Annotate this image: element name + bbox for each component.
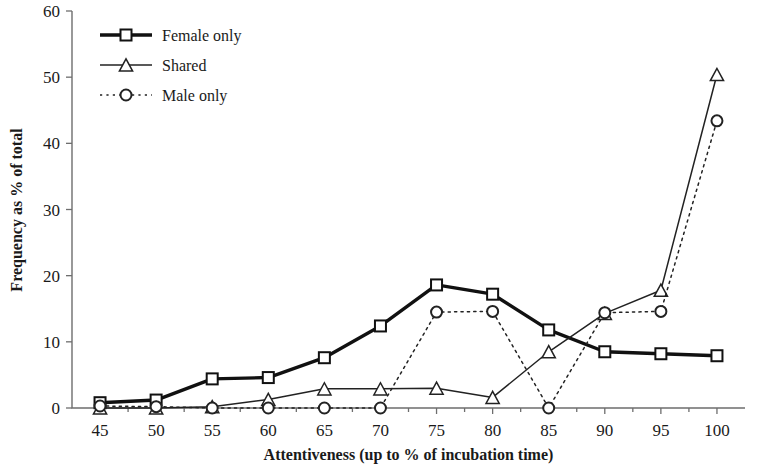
data-point-circle bbox=[95, 401, 106, 412]
x-tick-label: 75 bbox=[428, 421, 445, 440]
legend-item-female-only[interactable]: Female only bbox=[100, 27, 242, 45]
y-tick-label: 60 bbox=[43, 2, 60, 21]
x-tick-label: 80 bbox=[484, 421, 501, 440]
data-point-square bbox=[263, 372, 274, 383]
data-point-square bbox=[599, 346, 610, 357]
legend-item-male-only[interactable]: Male only bbox=[100, 87, 227, 105]
series-male-only bbox=[95, 115, 723, 413]
y-axis-title: Frequency as % of total bbox=[8, 128, 26, 292]
y-tick-label: 20 bbox=[43, 267, 60, 286]
x-tick-labels: 4550556065707580859095100 bbox=[92, 421, 730, 440]
data-point-circle bbox=[655, 306, 666, 317]
x-tick-label: 65 bbox=[316, 421, 333, 440]
chart-page: 0102030405060 4550556065707580859095100 … bbox=[0, 0, 771, 469]
data-point-circle bbox=[375, 403, 386, 414]
data-point-circle bbox=[487, 306, 498, 317]
legend-item-shared[interactable]: Shared bbox=[100, 57, 206, 74]
line-chart: 0102030405060 4550556065707580859095100 … bbox=[0, 0, 771, 469]
legend-label: Male only bbox=[162, 87, 227, 105]
y-tick-label: 0 bbox=[52, 399, 61, 418]
data-point-triangle bbox=[542, 346, 555, 358]
series-line bbox=[100, 75, 717, 408]
data-series bbox=[93, 68, 723, 414]
x-tick-label: 85 bbox=[540, 421, 557, 440]
data-point-square bbox=[655, 348, 666, 359]
data-point-square bbox=[711, 350, 722, 361]
data-point-square bbox=[487, 289, 498, 300]
legend-label: Female only bbox=[162, 27, 242, 45]
x-tick-label: 45 bbox=[92, 421, 109, 440]
y-tick-label: 40 bbox=[43, 134, 60, 153]
x-tick-label: 60 bbox=[260, 421, 277, 440]
x-tick-label: 95 bbox=[652, 421, 669, 440]
y-tick-label: 10 bbox=[43, 333, 60, 352]
legend-marker-square bbox=[121, 30, 132, 41]
x-axis-title: Attentiveness (up to % of incubation tim… bbox=[264, 446, 554, 464]
y-tick-label: 30 bbox=[43, 201, 60, 220]
data-point-square bbox=[207, 373, 218, 384]
data-point-circle bbox=[319, 403, 330, 414]
data-point-circle bbox=[599, 307, 610, 318]
data-point-circle bbox=[207, 403, 218, 414]
data-point-circle bbox=[263, 403, 274, 414]
x-tick-label: 55 bbox=[204, 421, 221, 440]
x-tick-label: 100 bbox=[704, 421, 730, 440]
legend-marker-circle bbox=[121, 90, 132, 101]
y-tick-labels: 0102030405060 bbox=[43, 2, 60, 418]
x-tick-label: 90 bbox=[596, 421, 613, 440]
y-tick-label: 50 bbox=[43, 68, 60, 87]
data-point-square bbox=[543, 324, 554, 335]
data-point-square bbox=[431, 279, 442, 290]
data-point-circle bbox=[543, 403, 554, 414]
legend-label: Shared bbox=[162, 57, 206, 74]
series-line bbox=[100, 285, 717, 403]
series-shared bbox=[93, 68, 723, 414]
chart-legend: Female onlySharedMale only bbox=[100, 27, 242, 105]
x-tick-label: 70 bbox=[372, 421, 389, 440]
data-point-circle bbox=[711, 115, 722, 126]
data-point-square bbox=[375, 320, 386, 331]
x-tick-label: 50 bbox=[148, 421, 165, 440]
data-point-triangle bbox=[710, 68, 723, 80]
data-point-circle bbox=[431, 307, 442, 318]
series-line bbox=[100, 121, 717, 408]
data-point-circle bbox=[151, 401, 162, 412]
data-point-square bbox=[319, 352, 330, 363]
